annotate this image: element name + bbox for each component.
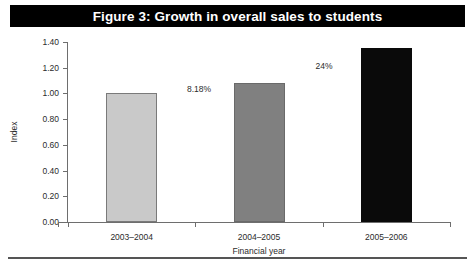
y-axis-tick-label: 0.80: [42, 114, 59, 124]
bar-1: [106, 93, 157, 222]
plot-area: [68, 42, 450, 222]
x-axis-tick: [195, 222, 196, 227]
data-label-1: 8.18%: [187, 84, 211, 94]
x-axis-tick: [58, 222, 59, 227]
y-axis-tick-label: 1.40: [42, 37, 59, 47]
x-axis-category-label: 2003–2004: [110, 232, 153, 242]
bar-3: [361, 48, 412, 222]
y-axis-tick-label: 0.60: [42, 140, 59, 150]
y-axis-tick-label: 0.20: [42, 191, 59, 201]
y-axis-title: Index: [9, 122, 19, 143]
y-axis-tick-label: 1.00: [42, 88, 59, 98]
x-axis-category-label: 2004–2005: [238, 232, 281, 242]
x-axis-category-label: 2005–2006: [365, 232, 408, 242]
y-axis-tick-label: 0.40: [42, 166, 59, 176]
x-axis-tick: [450, 222, 451, 227]
bottom-divider: [8, 257, 467, 259]
figure-title-bar: Figure 3: Growth in overall sales to stu…: [10, 5, 465, 27]
data-label-2: 24%: [315, 61, 332, 71]
bar-chart: 0.000.200.400.600.801.001.201.40 Index 2…: [0, 27, 475, 237]
x-axis-tick: [323, 222, 324, 227]
x-axis-tick: [68, 222, 69, 227]
y-axis-tick-label: 0.00: [42, 217, 59, 227]
y-axis-tick-label: 1.20: [42, 63, 59, 73]
x-axis-line: [58, 222, 450, 223]
bar-2: [234, 83, 285, 222]
figure-title: Figure 3: Growth in overall sales to stu…: [93, 9, 383, 24]
x-axis-title: Financial year: [233, 246, 286, 256]
